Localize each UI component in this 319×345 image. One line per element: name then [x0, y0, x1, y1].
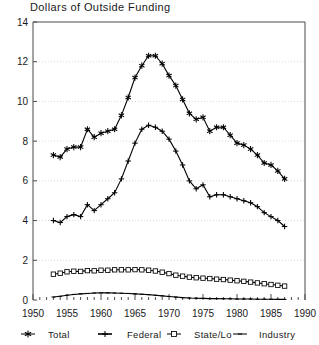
y-tick-label: 6: [22, 175, 28, 186]
data-point-marker-square: [140, 268, 144, 272]
data-point-marker-plus: [126, 158, 131, 163]
data-point-marker-asterisk: [207, 128, 212, 134]
x-tick-label: 1950: [22, 308, 45, 319]
data-point-marker-square: [214, 277, 218, 281]
data-point-marker-square: [146, 268, 150, 272]
x-tick-label: 1990: [294, 308, 317, 319]
legend-item-total[interactable]: Total: [21, 329, 70, 340]
data-point-marker-square: [180, 274, 184, 278]
data-point-marker-plus: [268, 214, 273, 219]
data-point-marker-square: [282, 284, 286, 288]
data-point-marker-square: [174, 273, 178, 277]
data-point-marker-square: [119, 268, 123, 272]
data-point-marker-plus: [102, 331, 108, 337]
data-point-marker-square: [269, 282, 273, 286]
legend-item-state-lo[interactable]: State/Lo: [167, 329, 232, 340]
data-point-marker-plus: [241, 198, 246, 203]
data-point-marker-square: [92, 269, 96, 273]
data-point-marker-square: [99, 268, 103, 272]
data-series-layer: [51, 53, 288, 300]
data-point-marker-plus: [146, 123, 151, 128]
data-point-marker-square: [106, 268, 110, 272]
legend-label: State/Lo: [194, 329, 232, 340]
data-point-marker-square: [276, 283, 280, 287]
data-point-marker-square: [51, 272, 55, 276]
data-point-marker-square: [153, 269, 157, 273]
data-point-marker-square: [112, 268, 116, 272]
data-point-marker-asterisk: [119, 112, 124, 118]
y-axis-ticks: [33, 22, 37, 300]
y-tick-label: 0: [22, 295, 28, 306]
chart-figure: Dollars of Outside Funding 02468101214 1…: [0, 0, 319, 345]
legend-item-industry[interactable]: Industry: [233, 329, 295, 340]
data-point-marker-plus: [180, 162, 185, 167]
data-point-marker-plus: [173, 148, 178, 153]
data-point-marker-plus: [207, 194, 212, 199]
y-tick-label: 4: [22, 215, 28, 226]
data-point-marker-square: [133, 267, 137, 271]
data-point-marker-plus: [228, 194, 233, 199]
data-point-marker-plus: [132, 140, 137, 145]
series-total: [51, 53, 288, 182]
legend-label: Industry: [259, 329, 295, 340]
data-point-marker-square: [262, 282, 266, 286]
x-tick-label: 1965: [124, 308, 147, 319]
data-point-marker-square: [242, 279, 246, 283]
y-tick-label: 14: [17, 17, 29, 28]
chart-canvas: 02468101214 1950195519601965197019751980…: [0, 0, 319, 345]
legend-label: Total: [48, 329, 70, 340]
y-tick-label: 10: [17, 96, 29, 107]
x-tick-label: 1985: [260, 308, 283, 319]
data-point-marker-square: [126, 268, 130, 272]
data-point-marker-square: [248, 280, 252, 284]
x-tick-label: 1970: [158, 308, 181, 319]
chart-legend: TotalFederalState/LoIndustry: [21, 329, 295, 340]
legend-label: Federal: [127, 329, 161, 340]
data-point-marker-plus: [51, 218, 56, 223]
data-point-marker-plus: [221, 192, 226, 197]
data-point-marker-square: [255, 281, 259, 285]
data-point-marker-square: [72, 269, 76, 273]
data-point-marker-plus: [248, 200, 253, 205]
x-tick-label: 1960: [90, 308, 113, 319]
data-point-marker-plus: [200, 182, 205, 187]
data-point-marker-square: [221, 277, 225, 281]
data-point-marker-square: [228, 278, 232, 282]
data-point-marker-square: [201, 276, 205, 280]
legend-item-federal[interactable]: Federal: [98, 329, 161, 340]
data-point-marker-asterisk: [126, 94, 131, 100]
series-state-lo: [51, 267, 287, 288]
data-point-marker-plus: [139, 127, 144, 132]
y-tick-label: 8: [22, 136, 28, 147]
data-point-marker-square: [171, 331, 176, 336]
data-point-marker-square: [208, 276, 212, 280]
data-point-marker-square: [187, 275, 191, 279]
data-point-marker-plus: [153, 125, 158, 130]
y-tick-label: 2: [22, 255, 28, 266]
data-point-marker-square: [194, 276, 198, 280]
x-tick-label: 1955: [56, 308, 79, 319]
data-point-marker-square: [85, 268, 89, 272]
data-point-marker-asterisk: [132, 75, 137, 81]
x-tick-label: 1975: [192, 308, 215, 319]
data-point-marker-plus: [71, 212, 76, 217]
data-point-marker-square: [65, 270, 69, 274]
data-point-marker-square: [78, 269, 82, 273]
data-point-marker-square: [167, 271, 171, 275]
data-point-marker-square: [58, 271, 62, 275]
y-axis-labels: 02468101214: [17, 17, 29, 306]
x-tick-label: 1980: [226, 308, 249, 319]
data-point-marker-plus: [234, 196, 239, 201]
x-axis-labels: 195019551960196519701975198019851990: [22, 308, 317, 319]
data-point-marker-plus: [214, 192, 219, 197]
data-point-marker-square: [160, 270, 164, 274]
data-point-marker-plus: [78, 214, 83, 219]
series-federal: [51, 123, 288, 230]
data-point-marker-square: [235, 279, 239, 283]
y-tick-label: 12: [17, 56, 29, 67]
